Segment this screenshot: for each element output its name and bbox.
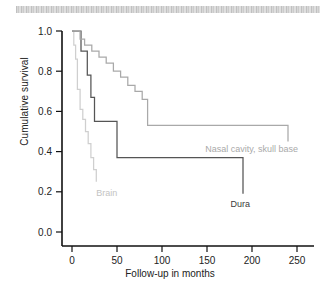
y-axis-label: Cumulative survival <box>19 42 30 162</box>
series-line-nasal-cavity-skull-base <box>72 31 288 142</box>
series-label-dura: Dura <box>230 199 250 209</box>
y-tick-label: 0.0 <box>38 227 52 238</box>
x-tick-label: 150 <box>199 255 216 266</box>
series-line-dura <box>72 31 243 194</box>
x-tick-label: 50 <box>111 255 123 266</box>
x-tick-label: 0 <box>69 255 75 266</box>
y-tick-label: 0.8 <box>38 66 52 77</box>
survival-chart: 0.00.20.40.60.81.0050100150200250BrainDu… <box>0 0 336 288</box>
x-tick-label: 200 <box>244 255 261 266</box>
x-axis-label: Follow-up in months <box>70 268 270 279</box>
x-tick-label: 100 <box>154 255 171 266</box>
y-tick-label: 0.6 <box>38 106 52 117</box>
y-tick-label: 0.4 <box>38 146 52 157</box>
x-tick-label: 250 <box>289 255 306 266</box>
series-label-nasal-cavity-skull-base: Nasal cavity, skull base <box>205 144 298 154</box>
y-tick-label: 1.0 <box>38 26 52 37</box>
series-label-brain: Brain <box>96 188 117 198</box>
y-tick-label: 0.2 <box>38 186 52 197</box>
figure-container: 0.00.20.40.60.81.0050100150200250BrainDu… <box>0 0 336 288</box>
plot-area: 0.00.20.40.60.81.0050100150200250BrainDu… <box>0 0 336 288</box>
series-line-brain <box>72 31 96 182</box>
